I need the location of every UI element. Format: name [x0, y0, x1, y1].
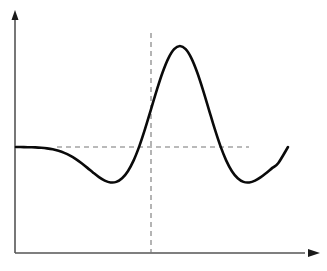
- vertical-axis-arrow-icon: [12, 10, 19, 20]
- vertical-axis: [12, 10, 19, 253]
- wavelet-curve: [16, 46, 288, 183]
- horizontal-axis: [15, 249, 320, 257]
- plot-canvas: [0, 0, 327, 271]
- wavelet-figure: [0, 0, 327, 271]
- horizontal-axis-arrow-icon: [308, 249, 320, 257]
